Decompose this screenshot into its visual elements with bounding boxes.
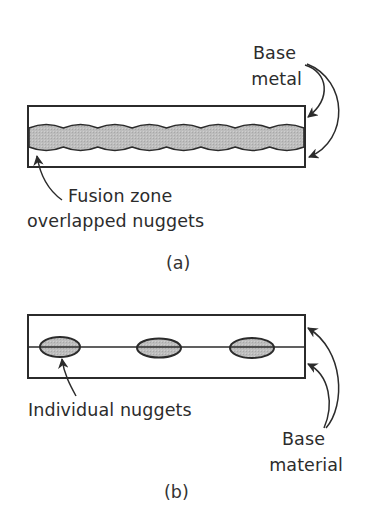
base-metal-label-line2: metal: [230, 68, 302, 90]
individual-nugget-3: [230, 338, 274, 358]
base-material-label-line2: material: [240, 454, 343, 476]
individual-nuggets-label: Individual nuggets: [28, 399, 192, 421]
panel-b-caption: (b): [164, 481, 189, 503]
individual-nugget-2: [137, 339, 181, 358]
base-metal-label-line1: Base: [230, 42, 296, 64]
fusion-zone-label-line2: overlapped nuggets: [27, 210, 204, 232]
panel-a-caption: (a): [166, 252, 190, 274]
fusion-zone-label-line1: Fusion zone: [68, 185, 172, 207]
base-metal-arrow-bottom: [307, 64, 339, 157]
base-material-label-line1: Base: [240, 428, 325, 450]
base-material-arrow-bottom: [308, 364, 329, 428]
fusion-zone-band: [29, 125, 304, 151]
